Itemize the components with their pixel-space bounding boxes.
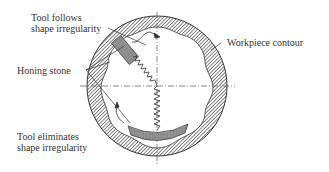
workpiece-ring (80, 10, 240, 170)
label-tool-eliminates: Tool eliminates shape irregularity (17, 131, 87, 153)
label-tool-eliminates-line2: shape irregularity (17, 142, 87, 153)
label-honing-stone: Honing stone (17, 65, 71, 76)
label-tool-follows-line1: Tool follows (31, 12, 101, 23)
label-tool-follows: Tool follows shape irregularity (31, 12, 101, 34)
label-tool-follows-line2: shape irregularity (31, 23, 101, 34)
label-workpiece-contour: Workpiece contour (227, 37, 303, 48)
label-tool-eliminates-line1: Tool eliminates (17, 131, 87, 142)
